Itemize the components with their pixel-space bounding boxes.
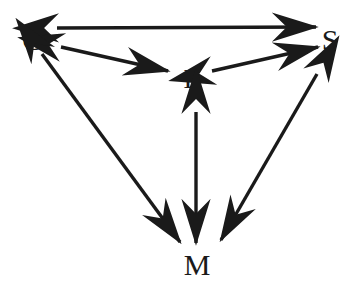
edge-g-l [61, 47, 168, 71]
edge-g-s [57, 27, 316, 28]
node-label-g: G [22, 25, 44, 55]
edge-g-m [42, 54, 180, 242]
node-label-m: M [184, 250, 211, 280]
edge-s-m [221, 74, 317, 240]
node-label-s: S [322, 25, 339, 55]
edge-l-s [212, 47, 318, 71]
node-label-l: L [183, 65, 200, 93]
diagram-edges-svg [0, 0, 352, 291]
diagram-canvas: G S L M [0, 0, 352, 291]
